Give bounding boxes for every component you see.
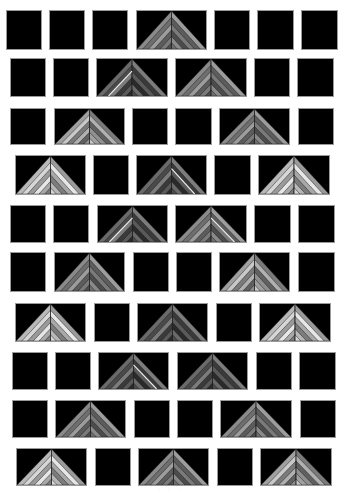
nested-chevron-pyramid-icon xyxy=(55,109,124,144)
black-square-tile xyxy=(134,400,170,438)
pyramid-tile xyxy=(136,155,207,195)
pyramid-tile xyxy=(138,448,209,486)
pyramid-tile xyxy=(15,155,86,195)
black-square-tile xyxy=(10,108,46,145)
nested-chevron-pyramid-icon xyxy=(259,156,329,194)
black-square-tile xyxy=(55,352,91,390)
pyramid-tile xyxy=(260,448,332,486)
pyramid-tile xyxy=(54,252,125,292)
pyramid-tile xyxy=(219,108,290,145)
black-square-tile xyxy=(10,252,46,292)
nested-chevron-pyramid-icon xyxy=(55,253,124,291)
black-square-tile xyxy=(301,10,338,50)
black-square-tile xyxy=(92,10,128,50)
nested-chevron-pyramid-icon xyxy=(137,156,206,194)
black-square-tile xyxy=(217,448,253,486)
black-square-tile xyxy=(133,252,169,292)
black-square-tile xyxy=(254,58,290,97)
black-square-tile xyxy=(6,10,42,50)
black-square-tile xyxy=(93,155,129,195)
nested-chevron-pyramid-icon xyxy=(99,353,168,389)
nested-chevron-pyramid-icon xyxy=(221,401,291,437)
black-square-tile xyxy=(214,10,250,50)
black-square-tile xyxy=(12,400,48,438)
black-square-tile xyxy=(12,352,48,390)
pyramid-tile xyxy=(219,252,290,292)
pyramid-tile xyxy=(54,108,125,145)
nested-chevron-pyramid-icon xyxy=(261,449,331,485)
nested-chevron-pyramid-icon xyxy=(16,156,85,194)
black-square-tile xyxy=(10,205,46,243)
black-square-tile xyxy=(298,252,335,292)
pyramid-tile xyxy=(175,58,247,97)
nested-chevron-pyramid-icon xyxy=(56,401,125,437)
pyramid-tile xyxy=(98,352,169,390)
pyramid-tile xyxy=(15,303,86,342)
pyramid-tile xyxy=(96,58,168,97)
black-square-tile xyxy=(300,400,336,438)
pyramid-tile xyxy=(258,155,330,195)
pyramid-tile xyxy=(175,205,247,243)
black-square-tile xyxy=(214,155,251,195)
pyramid-tile xyxy=(97,205,168,243)
nested-chevron-pyramid-icon xyxy=(16,304,85,341)
black-square-tile xyxy=(298,108,334,145)
black-square-tile xyxy=(95,448,131,486)
pyramid-tile xyxy=(16,448,87,486)
black-square-tile xyxy=(94,303,130,342)
black-square-tile xyxy=(49,10,85,50)
nested-chevron-pyramid-icon xyxy=(17,449,86,485)
black-square-tile xyxy=(132,108,168,145)
black-square-tile xyxy=(298,205,335,243)
black-square-tile xyxy=(254,205,291,243)
nested-chevron-pyramid-icon xyxy=(176,206,246,242)
figure-caption: · · · xyxy=(0,486,341,495)
nested-chevron-pyramid-icon xyxy=(98,206,167,242)
black-square-tile xyxy=(216,303,252,342)
pyramid-tile xyxy=(259,303,331,342)
pyramid-tile xyxy=(136,10,207,50)
nested-chevron-pyramid-icon xyxy=(138,304,207,341)
nested-chevron-pyramid-icon xyxy=(139,449,208,485)
black-square-tile xyxy=(175,108,212,145)
pyramid-tile xyxy=(177,352,248,390)
pyramid-tile xyxy=(220,400,292,438)
nested-chevron-pyramid-icon xyxy=(176,59,246,96)
pyramid-tile xyxy=(55,400,126,438)
black-square-tile xyxy=(257,10,294,50)
black-square-tile xyxy=(177,400,213,438)
black-square-tile xyxy=(176,252,212,292)
black-square-tile xyxy=(53,58,89,97)
nested-chevron-pyramid-icon xyxy=(97,59,167,96)
black-square-tile xyxy=(53,205,89,243)
black-square-tile xyxy=(256,352,292,390)
nested-chevron-pyramid-icon xyxy=(137,11,206,49)
nested-chevron-pyramid-icon xyxy=(220,253,289,291)
black-square-tile xyxy=(297,58,334,97)
black-square-tile xyxy=(299,352,336,390)
black-square-tile xyxy=(10,58,46,97)
nested-chevron-pyramid-icon xyxy=(220,109,289,144)
pyramid-tile xyxy=(137,303,208,342)
nested-chevron-pyramid-icon xyxy=(260,304,330,341)
nested-chevron-pyramid-icon xyxy=(178,353,247,389)
